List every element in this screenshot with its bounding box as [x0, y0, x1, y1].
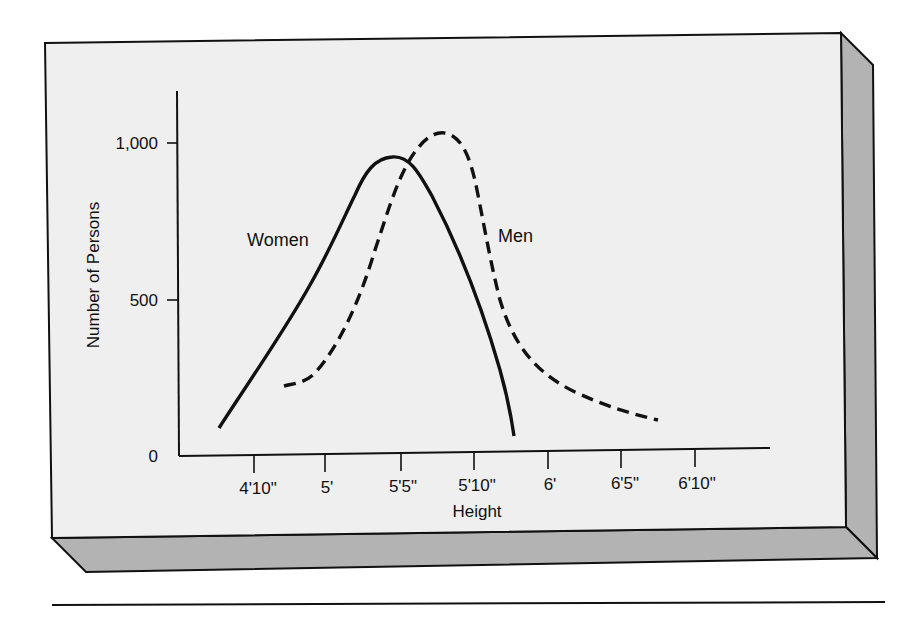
x-tick-label-3: 5'10"	[458, 476, 496, 495]
y-tick-label-500: 500	[130, 291, 158, 310]
x-tick-label-6: 6'10"	[678, 474, 716, 493]
panel-front-face	[45, 33, 846, 538]
x-tick-label-0: 4'10"	[239, 479, 277, 498]
y-tick-label-1000: 1,000	[115, 134, 158, 153]
y-axis-title: Number of Persons	[84, 202, 103, 348]
series-label-men: Men	[498, 226, 533, 246]
y-tick-label-0: 0	[149, 447, 158, 466]
x-tick-label-2: 5'5"	[389, 477, 417, 496]
bottom-rule	[52, 602, 885, 605]
chart-figure: 1,000 500 0 4'10" 5' 5'5" 5'10" 6' 6'5" …	[0, 0, 921, 617]
x-axis-title: Height	[452, 502, 501, 521]
x-tick-label-1: 5'	[321, 478, 334, 497]
x-tick-label-5: 6'5"	[611, 474, 639, 493]
x-tick-label-4: 6'	[544, 475, 557, 494]
series-label-women: Women	[247, 230, 309, 250]
